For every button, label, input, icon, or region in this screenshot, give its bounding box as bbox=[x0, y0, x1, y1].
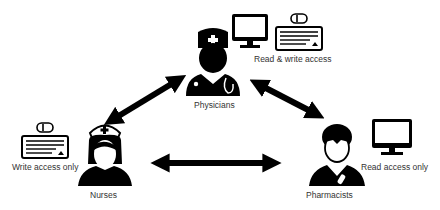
monitor-icon bbox=[232, 14, 268, 48]
pharmacists-label: Pharmacists bbox=[306, 190, 353, 200]
nurse-icon bbox=[78, 126, 132, 187]
nurses-label: Nurses bbox=[90, 190, 117, 200]
pharmacists-access-label: Read access only bbox=[361, 162, 428, 172]
physicians-label: Physicians bbox=[194, 100, 235, 110]
keyboard-mouse-icon bbox=[22, 123, 68, 158]
monitor-icon bbox=[372, 119, 412, 155]
physicians-access-label: Read & write access bbox=[254, 54, 331, 64]
arrow-physicians-pharmacists bbox=[258, 84, 316, 114]
physician-icon bbox=[186, 28, 240, 96]
keyboard-mouse-icon bbox=[276, 14, 322, 50]
pharmacist-icon bbox=[309, 124, 365, 186]
nurses-access-label: Write access only bbox=[12, 162, 78, 172]
arrow-physicians-nurses bbox=[112, 80, 178, 120]
